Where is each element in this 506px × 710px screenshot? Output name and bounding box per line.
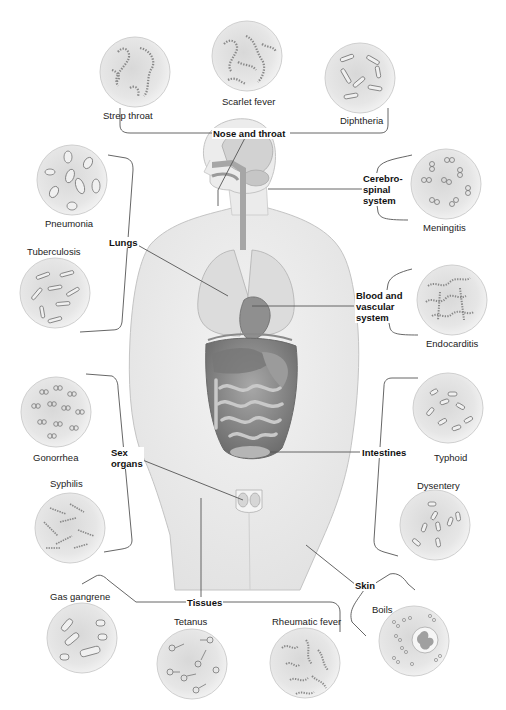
label-scarlet-fever: Scarlet fever <box>222 96 275 107</box>
system-label-skin: Skin <box>354 580 376 591</box>
system-label-cerebrospinal: Cerebro- spinal system <box>362 173 404 206</box>
micrograph-strep-throat <box>100 37 170 107</box>
system-label-sex-organs: Sex organs <box>110 447 144 469</box>
micrograph-typhoid <box>413 373 483 443</box>
label-typhoid: Typhoid <box>434 452 467 463</box>
micrograph-dysentery <box>400 490 470 560</box>
label-gas-gangrene: Gas gangrene <box>50 591 110 602</box>
label-dysentery: Dysentery <box>417 480 460 491</box>
label-endocarditis: Endocarditis <box>426 338 478 349</box>
label-boils: Boils <box>372 604 393 615</box>
label-diphtheria: Diphtheria <box>340 115 383 126</box>
label-strep-throat: Strep throat <box>103 110 153 121</box>
micrograph-gonorrhea <box>21 377 91 447</box>
system-label-blood-vascular: Blood and vascular system <box>355 290 403 323</box>
system-label-nose-throat: Nose and throat <box>212 128 286 139</box>
micrograph-diphtheria <box>325 43 395 113</box>
label-syphilis: Syphilis <box>50 478 83 489</box>
micrograph-rheumatic-fever <box>270 628 340 698</box>
system-label-intestines: Intestines <box>361 447 407 458</box>
label-pneumonia: Pneumonia <box>45 218 93 229</box>
label-meningitis: Meningitis <box>423 222 466 233</box>
system-label-tissues: Tissues <box>186 597 223 608</box>
micrograph-scarlet-fever <box>212 21 282 91</box>
micrograph-pneumonia <box>37 145 107 215</box>
micrograph-tetanus <box>157 629 227 699</box>
micrograph-tuberculosis <box>20 258 90 328</box>
label-tetanus: Tetanus <box>174 616 207 627</box>
micrograph-meningitis <box>411 149 481 219</box>
diagram-canvas: Strep throat Scarlet fever Diphtheria Pn… <box>0 0 506 710</box>
micrograph-boils <box>379 606 449 676</box>
label-gonorrhea: Gonorrhea <box>33 452 78 463</box>
label-rheumatic-fever: Rheumatic fever <box>272 616 341 627</box>
micrograph-endocarditis <box>417 265 487 335</box>
micrograph-gas-gangrene <box>47 603 117 673</box>
label-tuberculosis: Tuberculosis <box>27 246 81 257</box>
micrograph-syphilis <box>35 493 105 563</box>
system-label-lungs: Lungs <box>108 237 139 248</box>
